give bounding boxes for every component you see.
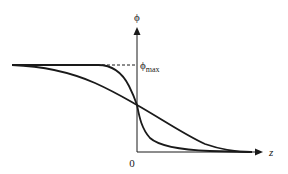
phi-axis-label: ϕ xyxy=(134,11,140,23)
z-axis-label: z xyxy=(268,146,274,158)
origin-label: 0 xyxy=(129,157,135,169)
gentle-profile-curve xyxy=(12,65,252,152)
z-axis-arrow-icon xyxy=(255,149,263,156)
phi-axis-arrow-icon xyxy=(134,27,141,35)
steep-profile-curve xyxy=(12,65,250,152)
phi-profile-diagram: ϕ ϕmax 0 z xyxy=(0,0,288,174)
phi-max-label: ϕmax xyxy=(140,59,160,74)
phi-max-label-subscript: max xyxy=(146,65,160,74)
